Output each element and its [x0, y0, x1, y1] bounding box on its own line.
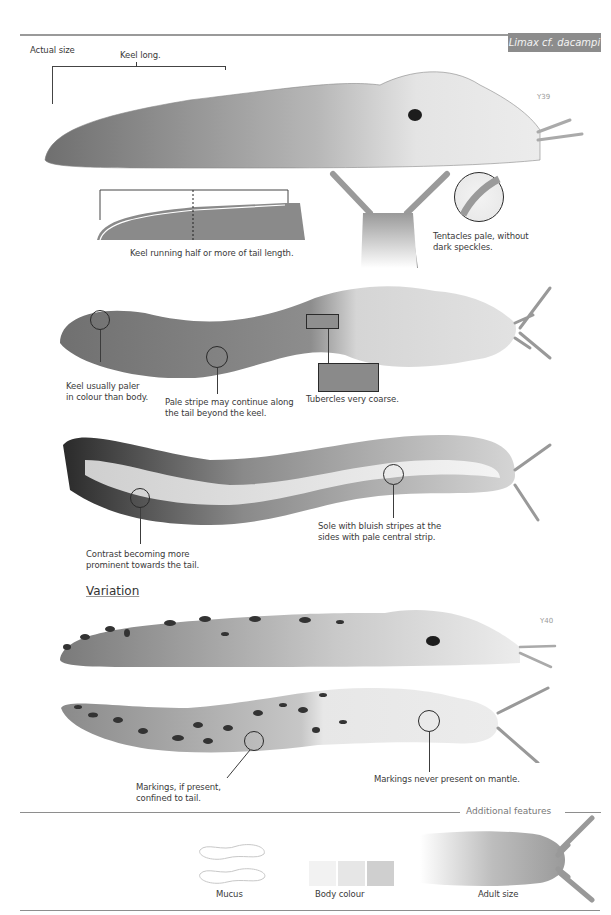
contrast-circle: [130, 488, 150, 508]
keel-colour-circle: [90, 310, 110, 330]
tubercles-leader: [328, 329, 329, 363]
pale-stripe-line1: Pale stripe may continue along: [165, 397, 294, 408]
mucus-label: Mucus: [216, 889, 243, 900]
mucus-icon: [197, 842, 272, 890]
slug-dorsal-view-image: [55, 283, 555, 378]
slug-side-view-image: [40, 60, 600, 170]
mantle-circle: [418, 710, 440, 732]
figure-code-y40: Y40: [540, 617, 553, 625]
tubercles-zoom-box: [318, 363, 379, 392]
tentacle-detail-circle: [454, 172, 504, 222]
sole-line2: sides with pale central strip.: [318, 532, 435, 543]
markings-tail-leader: [225, 750, 255, 780]
sole-stripe-circle: [383, 464, 404, 485]
body-colour-swatch-1: [309, 861, 336, 886]
footer-rule: [20, 910, 600, 911]
tentacles-head-image: [325, 168, 455, 268]
contrast-leader: [140, 508, 141, 544]
adult-size-label: Adult size: [478, 889, 518, 900]
additional-features-rule-left: [20, 812, 460, 813]
spotted-slug-side-image: [55, 605, 565, 675]
actual-size-label: Actual size: [30, 45, 75, 56]
tentacles-caption-line1: Tentacles pale, without: [433, 231, 529, 242]
figure-code-y39: Y39: [537, 93, 550, 101]
body-colour-label: Body colour: [315, 889, 364, 900]
keel-diagram-caption: Keel running half or more of tail length…: [130, 248, 294, 259]
body-colour-swatch-3: [367, 861, 394, 886]
markings-tail-line1: Markings, if present,: [136, 782, 221, 793]
keel-colour-leader: [100, 330, 101, 362]
pale-stripe-line2: the tail beyond the keel.: [165, 408, 266, 419]
pale-stripe-circle: [206, 346, 228, 368]
mantle-leader: [429, 732, 430, 772]
sole-stripe-leader: [393, 485, 394, 518]
keel-diagram: [95, 185, 310, 245]
contrast-line1: Contrast becoming more: [86, 549, 189, 560]
markings-tail-line2: confined to tail.: [136, 793, 201, 804]
slug-sole-view-image: [60, 430, 560, 540]
tubercles-caption: Tubercles very coarse.: [306, 394, 399, 405]
additional-features-rule-right: [565, 812, 601, 813]
species-title: Limax cf. dacampi: [508, 33, 601, 52]
sole-line1: Sole with bluish stripes at the: [318, 521, 441, 532]
tubercles-small-box: [306, 314, 339, 329]
pneumostome: [408, 109, 422, 121]
keel-paler-line2: in colour than body.: [66, 392, 148, 403]
pale-stripe-leader: [217, 368, 218, 394]
spotted-slug-dorsal-image: [58, 683, 568, 763]
keel-paler-line1: Keel usually paler: [66, 381, 139, 392]
contrast-line2: prominent towards the tail.: [86, 560, 199, 571]
mantle-caption: Markings never present on mantle.: [374, 774, 520, 785]
body-colour-swatch-2: [338, 861, 365, 886]
tentacles-caption-line2: dark speckles.: [433, 242, 493, 253]
variation-heading: Variation: [86, 584, 139, 598]
markings-tail-circle: [244, 731, 264, 751]
